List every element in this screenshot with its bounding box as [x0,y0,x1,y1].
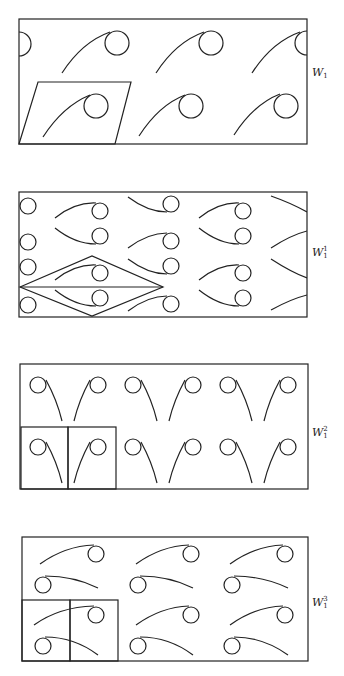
motif-stem [43,95,90,137]
label-base: W [312,426,323,439]
motif-stem [234,576,288,588]
label-base: W [312,596,323,609]
motif-circle [130,638,146,654]
motif-circle [235,228,251,244]
motif-stem [271,231,307,248]
motif-stem [234,94,280,135]
motif-stem [252,32,300,73]
panel-label-W1_1: W11 [312,246,328,260]
motif-stem [140,576,193,588]
motif-stem [141,442,157,483]
motif-stem [199,290,239,306]
motif-stem [34,606,94,625]
motif-circle [35,577,51,593]
motif-circle [183,546,199,562]
motif-stem [128,296,167,311]
panel-frame [19,192,307,317]
motif-stem [271,196,307,212]
unit-cell-outline [19,82,131,144]
motif-stem [169,380,185,421]
panel-W1_2 [20,364,308,489]
panel-motifs [7,31,319,137]
motif-stem [230,545,283,564]
label-subscript: 1 [323,433,327,440]
panel-motifs [20,196,307,313]
motif-stem [74,380,90,421]
motif-stem [55,203,96,218]
panel-W1_1 [19,192,307,317]
motif-stem [136,606,189,625]
motif-circle [163,258,179,274]
motif-circle [277,546,293,562]
motif-circle [125,439,141,455]
motif-stem [139,95,185,136]
label-subscript: 1 [323,603,327,610]
motif-stem [230,606,283,625]
motif-circle [163,196,179,212]
motif-circle [163,233,179,249]
motif-circle [183,607,199,623]
motif-stem [136,545,189,564]
motif-stem [236,442,252,483]
motif-circle [235,203,251,219]
motif-stem [55,265,96,280]
motif-stem [74,442,90,483]
label-subscript: 1 [323,253,327,260]
motif-stem [62,32,110,73]
motif-circle [92,228,108,244]
panel-motifs [30,377,296,483]
motif-stem [140,637,193,655]
motif-circle [224,577,240,593]
motif-circle [84,94,108,118]
motif-circle [105,31,129,55]
motif-circle [20,259,36,275]
motif-stem [46,442,62,483]
motif-circle [163,296,179,312]
motif-circle [20,234,36,250]
motif-circle [277,607,293,623]
motif-stem [264,380,280,421]
motif-stem [199,265,239,280]
motif-stem [271,295,307,310]
wallpaper-pattern-diagram [0,0,344,676]
motif-stem [141,380,157,421]
motif-circle [90,439,106,455]
motif-circle [88,546,104,562]
motif-circle [185,439,201,455]
motif-circle [30,377,46,393]
motif-circle [235,265,251,281]
motif-stem [128,259,167,274]
motif-stem [169,442,185,483]
motif-circle [179,94,203,118]
motif-circle [92,265,108,281]
motif-stem [264,442,280,483]
motif-circle [224,638,240,654]
panel-label-W1_2: W21 [312,426,328,440]
motif-stem [46,380,62,421]
motif-circle [30,439,46,455]
motif-circle [20,198,36,214]
motif-circle [220,439,236,455]
panel-W1_3 [22,537,308,661]
panel-label-W1: W 1 [312,66,328,80]
motif-circle [88,607,104,623]
motif-stem [236,380,252,421]
motif-circle [90,377,106,393]
motif-circle [185,377,201,393]
motif-stem [128,233,167,248]
motif-circle [35,638,51,654]
label-base: W [312,66,323,79]
motif-circle [199,31,223,55]
motif-stem [55,228,96,244]
motif-stem [45,637,98,655]
unit-cell-square [22,600,70,661]
motif-stem [40,545,94,564]
motif-stem [199,228,239,244]
motif-circle [235,290,251,306]
panel-label-W1_3: W31 [312,596,328,610]
motif-circle [280,377,296,393]
motif-circle [280,439,296,455]
motif-circle [130,577,146,593]
motif-stem [128,197,167,212]
label-subscript: 1 [323,73,327,80]
